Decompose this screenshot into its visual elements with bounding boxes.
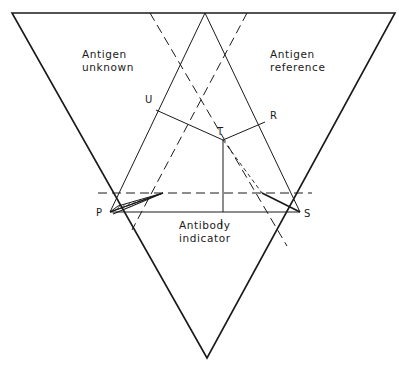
outer-triangle bbox=[12, 13, 395, 358]
label-antigen-unknown-line1: Antigen bbox=[82, 48, 134, 61]
line-UT bbox=[156, 110, 223, 140]
triangle-diagram bbox=[0, 0, 399, 368]
label-antigen-reference-line2: reference bbox=[270, 61, 326, 74]
point-label-P: P bbox=[96, 207, 103, 218]
line-TR bbox=[223, 122, 265, 140]
label-antigen-reference-line1: Antigen bbox=[270, 48, 326, 61]
point-label-T: T bbox=[217, 126, 224, 137]
thick-segment-to-S bbox=[262, 193, 300, 212]
point-label-S: S bbox=[304, 208, 311, 219]
point-label-U: U bbox=[145, 94, 153, 105]
inner-right-edge bbox=[205, 13, 300, 212]
label-antigen-unknown: Antigen unknown bbox=[82, 48, 134, 74]
inner-left-edge bbox=[110, 13, 205, 212]
point-label-I: I bbox=[220, 218, 224, 229]
point-label-R: R bbox=[270, 110, 278, 121]
label-antigen-unknown-line2: unknown bbox=[82, 61, 134, 74]
label-antibody-indicator-line2: indicator bbox=[179, 232, 231, 245]
label-antigen-reference: Antigen reference bbox=[270, 48, 326, 74]
